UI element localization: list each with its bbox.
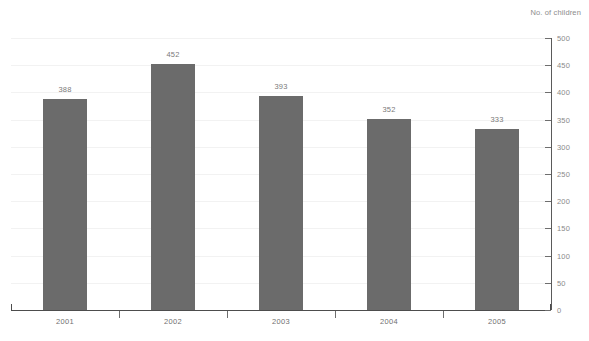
- y-axis-tick-label: 0: [557, 306, 561, 315]
- bar-group: 352: [335, 38, 443, 310]
- bar[interactable]: [475, 129, 519, 310]
- bar[interactable]: [43, 99, 87, 310]
- bar-value-label: 452: [166, 50, 179, 59]
- bar-value-label: 333: [490, 115, 503, 124]
- plot-area: 388452393352333: [11, 38, 551, 310]
- x-axis-tick-label: 2005: [443, 317, 551, 326]
- y-axis-tick-label: 250: [557, 170, 570, 179]
- bar-value-label: 352: [382, 105, 395, 114]
- y-axis-tick: [545, 256, 551, 257]
- bar-group: 452: [119, 38, 227, 310]
- bar-value-label: 393: [274, 82, 287, 91]
- y-axis-tick: [545, 283, 551, 284]
- y-axis-tick-label: 150: [557, 224, 570, 233]
- y-axis-tick-label: 50: [557, 278, 566, 287]
- y-axis-tick: [545, 65, 551, 66]
- x-axis-tick-label: 2004: [335, 317, 443, 326]
- x-axis-tick-label: 2001: [11, 317, 119, 326]
- x-axis-endcap-left: [11, 304, 12, 311]
- y-axis-tick: [545, 147, 551, 148]
- x-axis-tick-label: 2003: [227, 317, 335, 326]
- y-axis-tick-label: 350: [557, 115, 570, 124]
- y-axis-tick-label: 200: [557, 197, 570, 206]
- y-axis-tick-label: 100: [557, 251, 570, 260]
- y-axis-title: No. of children: [530, 8, 581, 17]
- y-axis-tick: [545, 228, 551, 229]
- bar[interactable]: [151, 64, 195, 310]
- x-axis-tick-label: 2002: [119, 317, 227, 326]
- y-axis-tick: [545, 38, 551, 39]
- y-axis-line: [551, 38, 552, 310]
- bar-group: 393: [227, 38, 335, 310]
- y-axis-tick: [545, 92, 551, 93]
- y-axis-tick: [545, 174, 551, 175]
- y-axis-tick-label: 300: [557, 142, 570, 151]
- bar-value-label: 388: [58, 85, 71, 94]
- y-axis-tick: [545, 310, 551, 311]
- y-axis-tick-label: 450: [557, 61, 570, 70]
- bar-group: 388: [11, 38, 119, 310]
- y-axis-tick-label: 400: [557, 88, 570, 97]
- bar-chart: No. of children 388452393352333 20012002…: [0, 0, 589, 341]
- y-axis-tick-label: 500: [557, 34, 570, 43]
- bar-group: 333: [443, 38, 551, 310]
- bar[interactable]: [259, 96, 303, 310]
- y-axis-tick: [545, 201, 551, 202]
- x-axis-line: [11, 310, 551, 311]
- y-axis-tick: [545, 120, 551, 121]
- bar[interactable]: [367, 119, 411, 310]
